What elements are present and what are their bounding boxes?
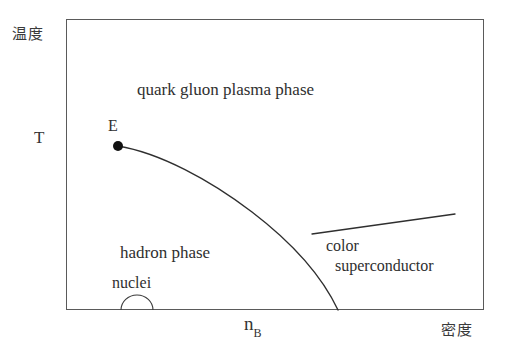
color-superconductor-label-line2: superconductor: [326, 256, 434, 276]
x-axis-symbol-subscript: B: [254, 326, 262, 340]
x-axis-title: 密度: [441, 318, 472, 339]
critical-point-marker: [113, 141, 123, 151]
y-axis-title: 温度: [12, 22, 43, 43]
color-superconductor-label-line1: color: [326, 237, 359, 254]
qcd-phase-diagram-figure: 温度 T nB 密度 E quark gluon plasma phase ha…: [0, 0, 509, 356]
nuclei-label: nuclei: [112, 274, 151, 292]
quark-gluon-plasma-label: quark gluon plasma phase: [137, 80, 314, 100]
hadron-phase-label: hadron phase: [120, 243, 210, 263]
x-axis-symbol: nB: [244, 313, 262, 339]
x-axis-symbol-base: n: [244, 313, 254, 334]
critical-point-label: E: [108, 117, 118, 135]
y-axis-symbol: T: [34, 128, 44, 148]
color-superconductor-label: colorsuperconductor: [326, 236, 434, 276]
